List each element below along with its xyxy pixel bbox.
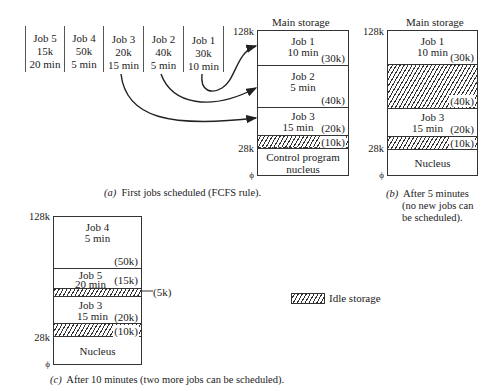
address-zero: ϕ <box>22 359 50 370</box>
caption-b: (b) After 5 minutes <box>386 188 469 200</box>
address-28k: 28k <box>226 143 254 154</box>
segment-size: (30k) <box>320 52 346 64</box>
segment-size: (10k) <box>449 137 475 149</box>
segment-size: (30k) <box>449 51 475 63</box>
segment-job-4: Job 4 5 min (50k) <box>54 217 141 268</box>
legend-label: Idle storage <box>329 292 381 304</box>
segment-job-2: Job 2 5 min (40k) <box>258 65 348 107</box>
caption-text: First jobs scheduled (FCFS rule). <box>122 187 262 198</box>
segment-size: (15k) <box>113 274 139 286</box>
main-storage-title: Main storage <box>272 16 330 28</box>
caption-b-line3: be scheduled). <box>402 212 463 224</box>
caption-prefix: (b) <box>386 188 398 199</box>
address-zero: ϕ <box>226 170 254 181</box>
segment-idle: (40k) <box>388 64 477 108</box>
segment-size: (40k) <box>320 94 346 106</box>
segment-job-3: Job 3 15 min (20k) <box>258 107 348 135</box>
callout-leader <box>140 286 154 296</box>
segment-job-5: Job 5 20 min (15k) <box>54 268 141 288</box>
address-128k: 128k <box>226 26 254 37</box>
segment-size: (10k) <box>320 136 346 148</box>
segment-size: (20k) <box>113 311 139 323</box>
segment-job-1: Job 1 10 min (30k) <box>258 31 348 65</box>
arrow-job2 <box>161 74 256 102</box>
address-28k: 28k <box>358 143 384 154</box>
segment-size: (50k) <box>113 255 139 267</box>
segment-size: (40k) <box>449 95 475 107</box>
caption-prefix: (a) <box>104 187 116 198</box>
idle-storage-swatch-icon <box>291 293 325 304</box>
address-28k: 28k <box>22 332 50 343</box>
segment-nucleus: Control program nucleus <box>258 148 348 175</box>
address-zero: ϕ <box>358 170 384 181</box>
segment-job-3: Job 3 15 min (20k) <box>54 297 141 323</box>
segment-size: (10k) <box>113 325 139 337</box>
caption-text: After 10 minutes (two more jobs can be s… <box>66 374 284 385</box>
caption-prefix: (c) <box>50 374 62 385</box>
arrow-job1 <box>202 46 256 91</box>
segment-size: (20k) <box>449 123 475 135</box>
segment-idle: (10k) <box>258 135 348 148</box>
segment-time: 5 min <box>258 81 348 93</box>
address-128k: 128k <box>358 26 384 37</box>
segment-name: Control program <box>258 151 348 163</box>
segment-name: Nucleus <box>388 157 477 169</box>
segment-size: (20k) <box>320 122 346 134</box>
memory-map-b: Job 1 10 min (30k) (40k) Job 3 15 min (2… <box>387 30 478 176</box>
segment-nucleus: Nucleus <box>388 149 477 175</box>
segment-job-1: Job 1 10 min (30k) <box>388 31 477 64</box>
memory-map-a: Job 1 10 min (30k) Job 2 5 min (40k) Job… <box>257 30 349 176</box>
address-128k: 128k <box>22 211 50 222</box>
caption-b-line2: (no new jobs can <box>402 200 473 212</box>
idle-5k-label: (5k) <box>153 286 171 298</box>
segment-idle: (10k) <box>388 136 477 149</box>
caption-text: After 5 minutes <box>403 188 469 199</box>
segment-idle: (10k) <box>54 323 141 337</box>
memory-map-c: Job 4 5 min (50k) Job 5 20 min (15k) Job… <box>53 216 142 365</box>
segment-time: 5 min <box>54 232 141 244</box>
arrow-job3 <box>121 74 256 122</box>
main-storage-title: Main storage <box>406 16 464 28</box>
segment-name-line2: nucleus <box>258 163 348 175</box>
caption-c: (c) After 10 minutes (two more jobs can … <box>50 374 284 386</box>
segment-idle <box>54 288 141 297</box>
segment-name: Nucleus <box>54 345 141 357</box>
segment-job-3: Job 3 15 min (20k) <box>388 108 477 136</box>
segment-nucleus: Nucleus <box>54 337 141 364</box>
caption-a: (a) First jobs scheduled (FCFS rule). <box>104 187 261 199</box>
